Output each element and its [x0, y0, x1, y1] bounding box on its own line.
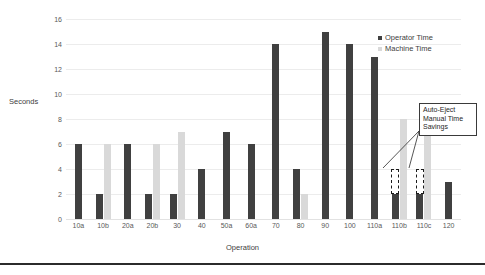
x-axis-tick-labels: 10a10b20a20b304050a60a708090100110a110b1…	[66, 222, 461, 234]
callout-line-3: Savings	[423, 123, 473, 132]
bar-operator-time	[96, 194, 103, 219]
legend-swatch-icon-operator	[378, 36, 382, 40]
bar-operator-time	[322, 32, 329, 220]
bar-operator-time	[198, 169, 205, 219]
x-axis-tick-label: 120	[436, 222, 461, 230]
x-axis-tick-label: 60a	[239, 222, 264, 230]
legend-label-machine: Machine Time	[385, 43, 432, 54]
bar-operator-time	[371, 57, 378, 220]
y-axis-tick-label: 0	[32, 216, 62, 223]
x-axis-tick-label: 20a	[115, 222, 140, 230]
y-axis-tick-label: 2	[32, 191, 62, 198]
y-axis-tick-label: 8	[32, 116, 62, 123]
bar-operator-time	[170, 194, 177, 219]
bar-operator-time	[145, 194, 152, 219]
y-axis-tick-labels: 1614121086420	[30, 19, 62, 219]
y-axis-tick-label: 16	[32, 16, 62, 23]
bar-machine-time	[104, 144, 111, 219]
bar-chart: Seconds 1614121086420 10a10b20a20b304050…	[0, 0, 485, 275]
x-axis-tick-label: 50a	[214, 222, 239, 230]
y-axis-tick-label: 12	[32, 66, 62, 73]
gridline	[66, 94, 461, 95]
x-axis-title: Operation	[0, 243, 485, 252]
x-axis-tick-label: 40	[189, 222, 214, 230]
bar-operator-time	[272, 44, 279, 219]
x-axis-tick-label: 100	[338, 222, 363, 230]
callout-line-1: Auto-Eject	[423, 106, 473, 115]
legend-swatch-icon-machine	[378, 47, 382, 51]
gridline	[66, 69, 461, 70]
y-axis-tick-label: 10	[32, 91, 62, 98]
x-axis-tick-label: 70	[264, 222, 289, 230]
bar-operator-time	[293, 169, 300, 219]
bar-machine-time	[178, 132, 185, 220]
bar-operator-time	[416, 194, 423, 219]
x-axis-tick-label: 30	[165, 222, 190, 230]
gridline	[66, 19, 461, 20]
legend-item-machine-time: Machine Time	[378, 43, 433, 54]
gridline	[66, 219, 461, 220]
bar-operator-time	[392, 194, 399, 219]
callout-line-2: Manual Time	[423, 115, 473, 124]
x-axis-tick-label: 90	[313, 222, 338, 230]
x-axis-tick-label: 110b	[387, 222, 412, 230]
legend-item-operator-time: Operator Time	[378, 32, 433, 43]
auto-eject-savings-box	[391, 169, 399, 194]
auto-eject-savings-callout: Auto-Eject Manual Time Savings	[419, 103, 477, 136]
bar-operator-time	[223, 132, 230, 220]
bar-operator-time	[75, 144, 82, 219]
bar-machine-time	[400, 119, 407, 219]
y-axis-tick-label: 6	[32, 141, 62, 148]
x-axis-tick-label: 80	[288, 222, 313, 230]
x-axis-tick-label: 110c	[412, 222, 437, 230]
auto-eject-savings-box	[416, 169, 424, 194]
x-axis-tick-label: 20b	[140, 222, 165, 230]
bar-machine-time	[153, 144, 160, 219]
x-axis-tick-label: 10a	[66, 222, 91, 230]
bar-operator-time	[445, 182, 452, 220]
bar-operator-time	[248, 144, 255, 219]
bar-operator-time	[346, 44, 353, 219]
y-axis-tick-label: 4	[32, 166, 62, 173]
y-axis-tick-label: 14	[32, 41, 62, 48]
bar-machine-time	[301, 194, 308, 219]
x-axis-tick-label: 110a	[362, 222, 387, 230]
chart-legend: Operator Time Machine Time	[378, 32, 433, 54]
bottom-divider	[0, 263, 485, 265]
bar-operator-time	[124, 144, 131, 219]
x-axis-tick-label: 10b	[91, 222, 116, 230]
legend-label-operator: Operator Time	[385, 32, 433, 43]
